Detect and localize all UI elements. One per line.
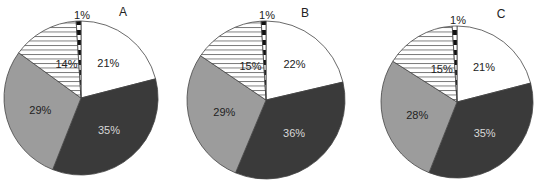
slice-label-hatched: 14% xyxy=(55,58,77,70)
slice-label-dashed: 1% xyxy=(259,9,275,21)
pie-c-graphic xyxy=(360,0,541,193)
panel-letter-b: B xyxy=(301,6,309,20)
slice-label-dashed: 1% xyxy=(74,9,90,21)
pie-b-graphic xyxy=(180,0,361,193)
slice-label-dark: 35% xyxy=(474,127,496,139)
slice-label-white: 21% xyxy=(97,57,119,69)
slice-label-white: 21% xyxy=(473,61,495,73)
panel-letter-a: A xyxy=(119,5,127,19)
pie-a-graphic xyxy=(0,0,181,193)
slice-label-gray: 28% xyxy=(406,109,428,121)
pie-chart-c: C 21%35%28%15%1% xyxy=(360,0,541,193)
slice-label-hatched: 15% xyxy=(431,63,453,75)
slice-label-hatched: 15% xyxy=(239,60,261,72)
panel-letter-c: C xyxy=(497,7,506,21)
slice-label-dark: 35% xyxy=(98,124,120,136)
pie-chart-a: A 21%35%29%14%1% xyxy=(0,0,181,193)
slice-label-gray: 29% xyxy=(29,104,51,116)
slice-label-dashed: 1% xyxy=(450,14,466,26)
slice-label-white: 22% xyxy=(283,58,305,70)
slice-label-gray: 29% xyxy=(213,106,235,118)
slice-label-dark: 36% xyxy=(283,127,305,139)
pie-chart-b: B 22%36%29%15%1% xyxy=(180,0,361,193)
